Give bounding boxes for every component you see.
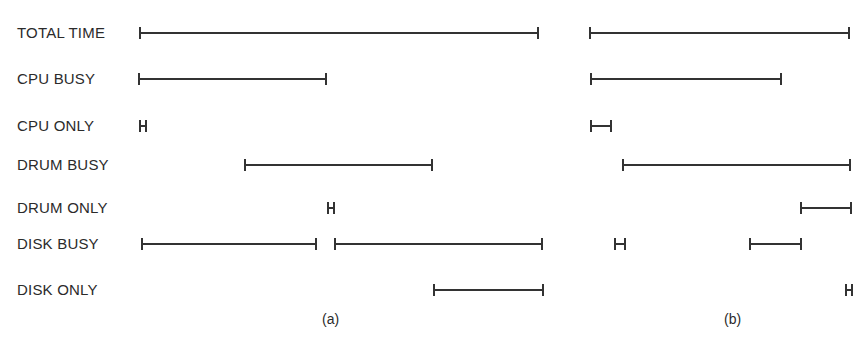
interval-bar <box>801 207 851 209</box>
interval-bar <box>590 32 849 34</box>
interval-bar <box>750 243 801 245</box>
row-label: DISK BUSY <box>17 235 99 253</box>
panel-caption: (b) <box>724 311 741 327</box>
row-label: DISK ONLY <box>17 281 98 299</box>
interval-bar <box>328 207 334 209</box>
interval-bar <box>139 78 326 80</box>
row-label: TOTAL TIME <box>17 24 105 42</box>
interval-bar <box>623 164 850 166</box>
interval-bar <box>140 32 538 34</box>
interval-bar <box>335 243 542 245</box>
interval-bar <box>846 289 852 291</box>
interval-bar <box>434 289 543 291</box>
row-label: CPU BUSY <box>17 70 95 88</box>
row-label: DRUM BUSY <box>17 156 109 174</box>
interval-bar <box>245 164 432 166</box>
interval-bar <box>142 243 316 245</box>
row-label: CPU ONLY <box>17 117 94 135</box>
interval-bar <box>140 125 146 127</box>
interval-bar <box>591 78 781 80</box>
interval-bar <box>591 125 611 127</box>
interval-bar <box>615 243 625 245</box>
row-label: DRUM ONLY <box>17 199 108 217</box>
panel-caption: (a) <box>322 311 339 327</box>
